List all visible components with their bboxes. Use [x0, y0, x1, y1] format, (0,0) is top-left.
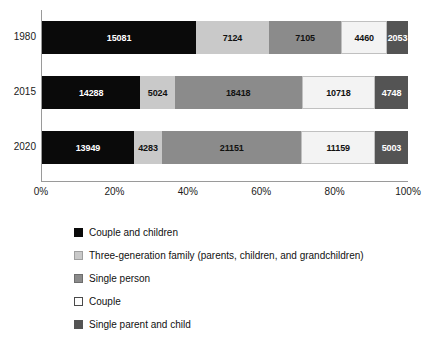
legend-item-couple-and-children[interactable]: Couple and children [74, 221, 404, 244]
legend-item-label: Single parent and child [89, 319, 191, 330]
x-tick-label: 20% [104, 186, 124, 197]
bar-segment[interactable]: 14288 [42, 76, 140, 109]
bar-segment[interactable]: 7124 [196, 21, 269, 54]
stacked-bar-chart: 1980 2015 2020 15081 7124 7105 4460 2053… [0, 0, 430, 345]
bar-segment[interactable]: 2053 [387, 21, 408, 54]
bar-row-2015: 14288 5024 18418 10718 4748 [42, 76, 408, 109]
bar-segment[interactable]: 5024 [140, 76, 175, 109]
legend-item-three-generation-family[interactable]: Three-generation family (parents, childr… [74, 244, 404, 267]
bar-segment[interactable]: 18418 [175, 76, 302, 109]
bar-segment[interactable]: 7105 [269, 21, 342, 54]
x-tick-label: 80% [325, 186, 345, 197]
legend-swatch-icon [74, 297, 83, 306]
bar-segment[interactable]: 15081 [42, 21, 196, 54]
legend-item-label: Single person [89, 273, 150, 284]
legend-item-single-person[interactable]: Single person [74, 267, 404, 290]
x-tick-label: 100% [395, 186, 421, 197]
bar-segment[interactable]: 4283 [134, 131, 162, 164]
legend-item-single-parent-and-child[interactable]: Single parent and child [74, 313, 404, 336]
legend-item-couple[interactable]: Couple [74, 290, 404, 313]
legend-swatch-icon [74, 320, 83, 329]
legend-swatch-icon [74, 228, 83, 237]
bar-row-1980: 15081 7124 7105 4460 2053 [42, 21, 408, 54]
y-tick-label-1980: 1980 [0, 31, 36, 42]
y-tick-label-2015: 2015 [0, 86, 36, 97]
legend-swatch-icon [74, 251, 83, 260]
bar-segment[interactable]: 11159 [301, 131, 375, 164]
legend-swatch-icon [74, 274, 83, 283]
y-tick-label-2020: 2020 [0, 141, 36, 152]
legend-item-label: Couple [89, 296, 121, 307]
bar-segment[interactable]: 13949 [42, 131, 134, 164]
bar-segment[interactable]: 4460 [341, 21, 387, 54]
x-axis-line [41, 181, 408, 182]
legend-item-label: Three-generation family (parents, childr… [89, 250, 364, 261]
x-tick-label: 40% [178, 186, 198, 197]
x-tick-label: 0% [34, 186, 48, 197]
bar-segment[interactable]: 10718 [302, 76, 376, 109]
plot-area: 15081 7124 7105 4460 2053 14288 5024 184… [41, 10, 408, 182]
bar-segment[interactable]: 5003 [375, 131, 408, 164]
x-tick-label: 60% [251, 186, 271, 197]
chart-legend: Couple and children Three-generation fam… [74, 221, 404, 336]
bar-segment[interactable]: 21151 [162, 131, 301, 164]
bar-row-2020: 13949 4283 21151 11159 5003 [42, 131, 408, 164]
legend-item-label: Couple and children [89, 227, 178, 238]
bar-segment[interactable]: 4748 [375, 76, 408, 109]
